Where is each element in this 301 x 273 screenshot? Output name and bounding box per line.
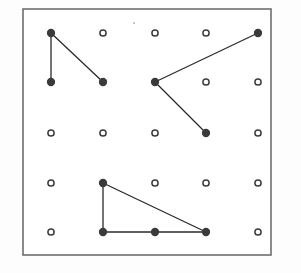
pin-r2-c0[interactable]	[48, 130, 54, 136]
pin-r0-c1[interactable]	[100, 30, 106, 36]
pin-r3-c0[interactable]	[48, 180, 54, 186]
pin-r2-c3[interactable]	[203, 130, 210, 137]
pin-r2-c2[interactable]	[152, 130, 158, 136]
pin-r1-c3[interactable]	[203, 79, 209, 85]
pin-r2-c1[interactable]	[100, 130, 106, 136]
geoboard-figure	[0, 0, 301, 273]
pin-r0-c2[interactable]	[152, 30, 158, 36]
pin-r2-c4[interactable]	[255, 130, 261, 136]
pin-r3-c1[interactable]	[100, 180, 107, 187]
pin-r4-c4[interactable]	[255, 229, 261, 235]
pin-r3-c3[interactable]	[203, 180, 209, 186]
pin-r1-c1[interactable]	[100, 79, 107, 86]
board-frame	[23, 9, 271, 255]
pin-r3-c4[interactable]	[255, 180, 261, 186]
pin-r0-c0[interactable]	[48, 30, 55, 37]
pin-r1-c0[interactable]	[48, 79, 55, 86]
scan-speck	[133, 22, 135, 24]
pin-r4-c0[interactable]	[48, 229, 54, 235]
pin-r4-c3[interactable]	[203, 229, 210, 236]
pin-r1-c2[interactable]	[152, 79, 159, 86]
scan-artifacts-layer	[133, 22, 135, 24]
pin-r1-c4[interactable]	[255, 79, 261, 85]
pin-r4-c1[interactable]	[100, 229, 107, 236]
pin-r4-c2[interactable]	[152, 229, 159, 236]
pin-r0-c4[interactable]	[255, 30, 262, 37]
geoboard-canvas	[0, 0, 301, 273]
pin-r0-c3[interactable]	[203, 30, 209, 36]
pin-r3-c2[interactable]	[152, 180, 158, 186]
